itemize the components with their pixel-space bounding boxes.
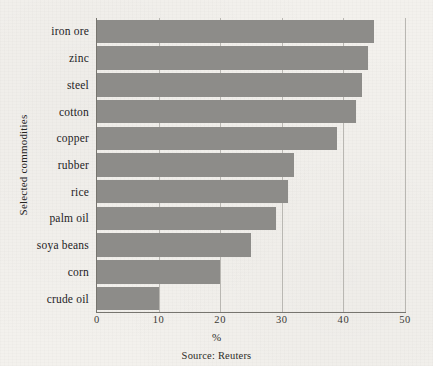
x-tick-label-20: 20 <box>214 314 226 325</box>
category-label-zinc: zinc <box>69 52 89 64</box>
bar-row: copper <box>97 127 405 151</box>
bar-iron-ore <box>97 20 374 44</box>
bar-crude-oil <box>97 287 159 311</box>
bar-rubber <box>97 153 294 177</box>
bar-soya-beans <box>97 233 251 257</box>
bar-row: rubber <box>97 153 405 177</box>
category-label-iron-ore: iron ore <box>51 25 89 37</box>
bar-cotton <box>97 100 356 124</box>
bar-corn <box>97 260 220 284</box>
x-tick-label-10: 10 <box>153 314 165 325</box>
category-label-crude-oil: crude oil <box>47 293 89 305</box>
category-label-copper: copper <box>57 132 90 144</box>
x-axis-line <box>96 312 406 313</box>
bar-zinc <box>97 46 368 70</box>
category-label-rubber: rubber <box>58 159 89 171</box>
bar-row: soya beans <box>97 233 405 257</box>
bar-row: steel <box>97 73 405 97</box>
bar-copper <box>97 127 337 151</box>
bar-series: iron orezincsteelcottoncopperrubberricep… <box>97 18 405 312</box>
bar-steel <box>97 73 362 97</box>
category-label-palm-oil: palm oil <box>49 212 89 224</box>
y-axis-label-text: Selected commodities <box>17 115 29 216</box>
y-axis-label: Selected commodities <box>14 0 32 330</box>
x-tick-label-0: 0 <box>94 314 100 325</box>
category-label-corn: corn <box>68 266 89 278</box>
plot-area: iron orezincsteelcottoncopperrubberricep… <box>97 18 405 312</box>
category-label-soya-beans: soya beans <box>37 239 89 251</box>
bar-row: zinc <box>97 46 405 70</box>
category-label-rice: rice <box>71 186 89 198</box>
source-note: Source: Reuters <box>0 350 433 361</box>
x-tick-label-40: 40 <box>338 314 350 325</box>
bar-palm-oil <box>97 207 276 231</box>
bar-row: rice <box>97 180 405 204</box>
bar-row: corn <box>97 260 405 284</box>
x-tick-label-50: 50 <box>399 314 411 325</box>
bar-rice <box>97 180 288 204</box>
category-label-cotton: cotton <box>59 106 89 118</box>
bar-row: iron ore <box>97 20 405 44</box>
x-axis-label: % <box>0 331 433 343</box>
bar-row: crude oil <box>97 287 405 311</box>
bar-chart-figure: Selected commodities iron orezincsteelco… <box>0 0 433 366</box>
bar-row: palm oil <box>97 207 405 231</box>
bar-row: cotton <box>97 100 405 124</box>
category-label-steel: steel <box>67 79 89 91</box>
gridline-50 <box>405 18 406 312</box>
x-tick-label-30: 30 <box>276 314 288 325</box>
